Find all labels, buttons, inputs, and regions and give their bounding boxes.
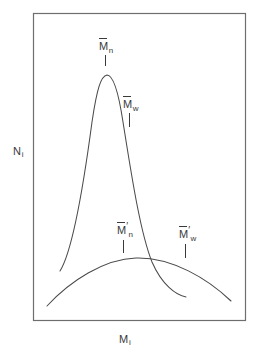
marker-mn: Mn — [99, 36, 113, 55]
marker-mn-prime-symbol-wrap: M — [117, 225, 126, 236]
y-axis-symbol: N — [13, 145, 21, 157]
marker-mn-prime: M′n — [117, 220, 133, 239]
marker-mw-subscript: w — [132, 104, 138, 113]
marker-mw-prime-subscript: w — [190, 234, 196, 243]
marker-mw-prime: M′w — [179, 224, 196, 243]
marker-mw-symbol: M — [123, 98, 132, 110]
y-axis-label: Ni — [13, 145, 24, 159]
marker-mn-text: Mn — [99, 41, 113, 55]
marker-mn-prime-tick — [123, 240, 124, 253]
marker-mw-text: Mw — [123, 99, 138, 113]
overbar-icon — [99, 38, 107, 39]
y-axis-subscript: i — [21, 150, 24, 159]
figure-container: Ni Mi Mn Mw M′n M′w — [0, 0, 267, 360]
plot-frame — [34, 14, 246, 321]
plot-canvas — [0, 0, 267, 360]
overbar-icon — [117, 222, 125, 223]
overbar-icon — [179, 226, 187, 227]
marker-mw-prime-symbol: M — [179, 228, 188, 240]
marker-mn-symbol: M — [99, 40, 108, 52]
marker-mn-subscript: n — [108, 46, 113, 55]
marker-mw-tick — [129, 113, 130, 127]
marker-mw: Mw — [123, 94, 138, 113]
marker-mn-prime-symbol: M — [117, 224, 126, 236]
marker-mw-prime-symbol-wrap: M — [179, 229, 188, 240]
marker-mn-prime-subscript: n — [128, 230, 133, 239]
marker-mn-prime-text: M′n — [117, 222, 133, 239]
marker-mn-symbol-wrap: M — [99, 41, 108, 52]
marker-mw-prime-tick — [185, 244, 186, 258]
broad-distribution-curve — [47, 258, 231, 306]
x-axis-subscript: i — [128, 338, 131, 347]
marker-mw-symbol-wrap: M — [123, 99, 132, 110]
marker-mn-tick — [105, 55, 106, 66]
overbar-icon — [123, 96, 131, 97]
x-axis-label: Mi — [119, 333, 131, 347]
marker-mw-prime-text: M′w — [179, 226, 196, 243]
